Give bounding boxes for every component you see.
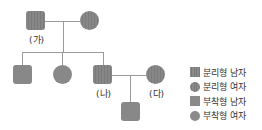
father-ga-square bbox=[26, 11, 45, 30]
grandson-square bbox=[121, 102, 140, 121]
child-drop-1 bbox=[22, 52, 23, 65]
legend-label: 분리형 여자 bbox=[203, 80, 246, 93]
solid-circle-icon bbox=[190, 111, 200, 121]
legend-item-separated-female: 분리형 여자 bbox=[190, 80, 246, 95]
striped-circle-icon bbox=[190, 82, 200, 92]
child-drop-2 bbox=[62, 52, 63, 65]
descent-line-gen2 bbox=[130, 75, 131, 102]
legend-label: 부착형 여자 bbox=[203, 109, 246, 122]
daughter-circle bbox=[53, 65, 72, 84]
legend-label: 분리형 남자 bbox=[203, 66, 246, 79]
son-1-square bbox=[13, 65, 32, 84]
striped-square-icon bbox=[190, 67, 200, 77]
legend: 분리형 남자 분리형 여자 부착형 남자 부착형 여자 bbox=[190, 65, 246, 123]
label-na: (나) bbox=[96, 87, 111, 100]
spouse-da-circle bbox=[146, 65, 165, 84]
legend-label: 부착형 남자 bbox=[203, 95, 246, 108]
marriage-line-gen2 bbox=[112, 75, 146, 76]
descent-line-gen1 bbox=[63, 21, 64, 52]
solid-square-icon bbox=[190, 96, 200, 106]
sibship-line bbox=[22, 52, 104, 53]
label-ga: (가) bbox=[29, 33, 44, 46]
label-da: (다) bbox=[149, 87, 164, 100]
son-na-square bbox=[93, 65, 112, 84]
legend-item-attached-male: 부착형 남자 bbox=[190, 94, 246, 109]
legend-item-separated-male: 분리형 남자 bbox=[190, 65, 246, 80]
legend-item-attached-female: 부착형 여자 bbox=[190, 109, 246, 124]
child-drop-3 bbox=[103, 52, 104, 65]
mother-circle bbox=[80, 11, 99, 30]
